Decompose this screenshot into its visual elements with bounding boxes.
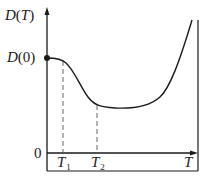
x-axis-label: T xyxy=(184,155,192,170)
d-of-t-curve xyxy=(47,20,192,108)
y-label-fn: D xyxy=(5,7,16,23)
t1-subscript: 1 xyxy=(66,162,71,172)
t2-label: T2 xyxy=(91,155,105,170)
t1-label: T1 xyxy=(57,155,71,170)
y-axis-label: D(T) xyxy=(5,8,34,23)
y-axis-arrow-icon xyxy=(45,7,50,15)
t2-base: T xyxy=(91,154,99,170)
diagram-canvas: D(T) D(0) 0 T1 T2 T xyxy=(0,0,205,179)
diagram-svg xyxy=(0,0,205,179)
d0-point xyxy=(44,55,50,61)
d0-label-close-paren: ) xyxy=(30,49,35,65)
y-label-close-paren: ) xyxy=(29,7,34,23)
d0-label-fn: D xyxy=(7,49,18,65)
t1-base: T xyxy=(57,154,65,170)
y-label-arg: T xyxy=(21,7,29,23)
origin-label: 0 xyxy=(34,146,42,161)
y-intercept-label: D(0) xyxy=(7,50,35,65)
t2-subscript: 2 xyxy=(100,162,105,172)
